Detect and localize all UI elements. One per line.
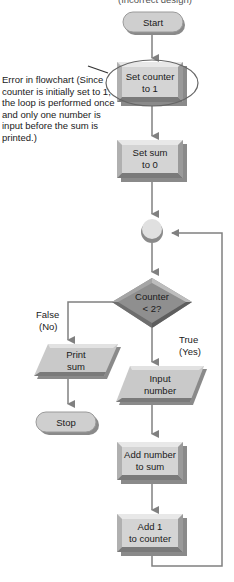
input-number-line1: Input — [149, 373, 170, 384]
node-input-number: Input number — [116, 366, 207, 405]
add-number-line1: Add number — [124, 449, 176, 460]
true-label-line1: True — [179, 334, 198, 345]
decision-line2: < 2? — [143, 303, 162, 314]
true-label-line2: (Yes) — [179, 346, 201, 357]
node-print-sum: Print sum — [34, 344, 121, 379]
set-counter-line2: to 1 — [142, 83, 158, 94]
node-set-sum: Set sum to 0 — [117, 140, 187, 182]
add-number-line2: to sum — [136, 461, 165, 472]
print-sum-line1: Print — [66, 349, 86, 360]
decision-line1: Counter — [135, 291, 169, 302]
add-counter-line2: to counter — [129, 533, 171, 544]
node-add-number: Add number to sum — [117, 442, 187, 484]
start-label: Start — [143, 17, 163, 28]
node-add-counter: Add 1 to counter — [117, 514, 187, 556]
stop-label: Stop — [56, 417, 76, 428]
arrow-decision-false — [68, 302, 113, 340]
input-number-line2: number — [144, 385, 176, 396]
annotation-pointer — [88, 66, 108, 73]
node-stop: Stop — [36, 412, 99, 435]
set-counter-line1: Set counter — [126, 71, 175, 82]
set-sum-line2: to 0 — [142, 159, 158, 170]
set-sum-line1: Set sum — [133, 147, 168, 158]
node-set-counter: Set counter to 1 — [117, 62, 187, 106]
false-label-line2: (No) — [39, 321, 57, 332]
node-connector — [141, 219, 163, 243]
false-label-line1: False — [36, 309, 59, 320]
node-decision: Counter < 2? — [112, 278, 192, 328]
print-sum-line2: sum — [67, 361, 85, 372]
flowchart: Start Set counter to 1 Set sum to 0 Cou — [0, 0, 234, 582]
node-start: Start — [123, 12, 185, 35]
add-counter-line1: Add 1 — [138, 521, 163, 532]
